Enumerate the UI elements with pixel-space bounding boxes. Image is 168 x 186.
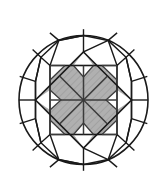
diamond-diagram-svg [0,0,168,186]
spoke-ssw [50,160,59,168]
spoke-nnw [50,33,59,41]
diamond-facet-figure [0,0,168,186]
ug-facet-10 [36,57,51,81]
spoke-nne [108,33,117,41]
spoke-sse [108,160,117,168]
ug-facet-3 [126,57,131,100]
ug-facet-4 [126,100,131,143]
ug-facet-8 [36,119,51,143]
